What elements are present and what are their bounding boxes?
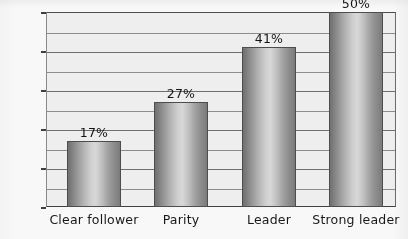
bar [242, 47, 296, 207]
y-axis-tick-mark [41, 207, 46, 209]
x-axis-category-label: Strong leader [305, 212, 407, 227]
bar [154, 102, 208, 207]
bar-value-label: 50% [329, 0, 383, 11]
bar-value-label: 27% [154, 86, 208, 101]
x-axis-category-label: Parity [130, 212, 232, 227]
bar-value-label: 17% [67, 125, 121, 140]
chart-figure: 01020304050% 17%Clear follower27%Parity4… [0, 0, 408, 239]
bar [329, 12, 383, 207]
bar-value-label: 41% [242, 31, 296, 46]
bar [67, 141, 121, 207]
